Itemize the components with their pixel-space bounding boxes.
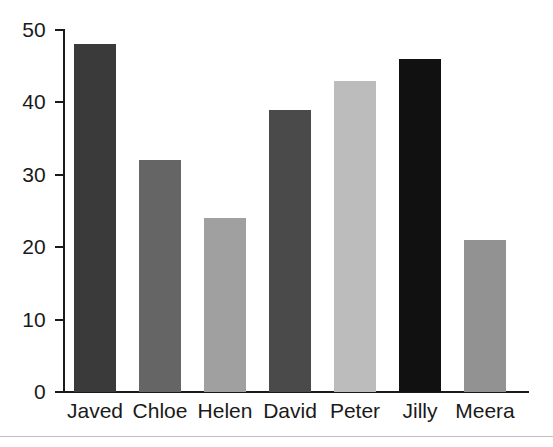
bar-peter	[334, 81, 376, 392]
bottom-divider	[0, 436, 553, 437]
y-axis-tick	[55, 246, 64, 248]
y-axis-tick	[55, 29, 64, 31]
y-axis-tick-label: 20	[0, 236, 46, 257]
bar-david	[269, 110, 311, 392]
bar-meera	[464, 240, 506, 392]
bars-layer	[64, 30, 528, 392]
y-axis-tick-label: 0	[0, 381, 46, 402]
y-axis-tick	[55, 174, 64, 176]
y-axis-tick	[55, 391, 64, 393]
y-axis-tick	[55, 101, 64, 103]
bar-helen	[204, 218, 246, 392]
y-axis-tick-label: 10	[0, 309, 46, 330]
y-axis-tick	[55, 319, 64, 321]
y-axis-tick-label: 30	[0, 164, 46, 185]
x-axis-label-meera: Meera	[435, 400, 535, 421]
bar-jilly	[399, 59, 441, 392]
y-axis-tick-label: 40	[0, 91, 46, 112]
bar-javed	[74, 44, 116, 392]
bar-chart: 01020304050 JavedChloeHelenDavidPeterJil…	[0, 0, 553, 447]
bar-chloe	[139, 160, 181, 392]
y-axis-tick-label: 50	[0, 19, 46, 40]
